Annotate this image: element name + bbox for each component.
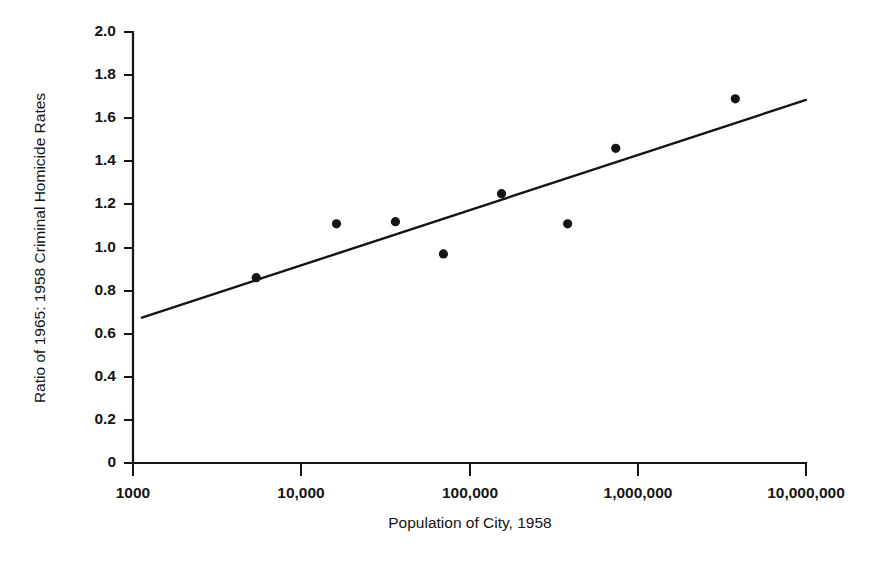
data-point xyxy=(611,144,620,153)
data-point xyxy=(439,249,448,258)
x-axis-ticks xyxy=(133,463,806,476)
y-tick-label: 1.4 xyxy=(94,151,116,168)
y-tick-label: 0.4 xyxy=(94,367,116,384)
y-tick-label: 1.8 xyxy=(94,65,116,82)
data-point xyxy=(497,189,506,198)
y-tick-label: 1.6 xyxy=(94,108,116,125)
y-tick-label: 0.2 xyxy=(94,410,116,427)
trend-line-group xyxy=(142,100,806,318)
data-point xyxy=(252,273,261,282)
data-points-group xyxy=(252,94,740,282)
data-point xyxy=(731,94,740,103)
x-tick-label: 100,000 xyxy=(442,484,498,501)
data-point xyxy=(391,217,400,226)
y-tick-label: 0 xyxy=(107,453,116,470)
y-tick-label: 2.0 xyxy=(94,22,116,39)
data-point xyxy=(563,219,572,228)
data-point xyxy=(332,219,341,228)
x-tick-label: 10,000,000 xyxy=(767,484,845,501)
y-axis-ticks xyxy=(124,32,133,463)
y-tick-label: 0.6 xyxy=(94,324,116,341)
x-tick-label: 1000 xyxy=(116,484,150,501)
x-tick-label: 1,000,000 xyxy=(604,484,673,501)
y-tick-label: 1.2 xyxy=(94,194,116,211)
y-tick-label: 0.8 xyxy=(94,281,116,298)
x-axis-title: Population of City, 1958 xyxy=(388,514,551,531)
y-tick-label: 1.0 xyxy=(94,238,116,255)
regression-line xyxy=(142,100,806,318)
y-axis-title: Ratio of 1965: 1958 Criminal Homicide Ra… xyxy=(31,93,48,403)
chart-figure: 2.0 1.8 1.6 1.4 1.2 1.0 0.8 0.6 0.4 0.2 … xyxy=(0,0,896,569)
scatter-plot: 2.0 1.8 1.6 1.4 1.2 1.0 0.8 0.6 0.4 0.2 … xyxy=(0,0,896,569)
x-tick-label: 10,000 xyxy=(277,484,324,501)
